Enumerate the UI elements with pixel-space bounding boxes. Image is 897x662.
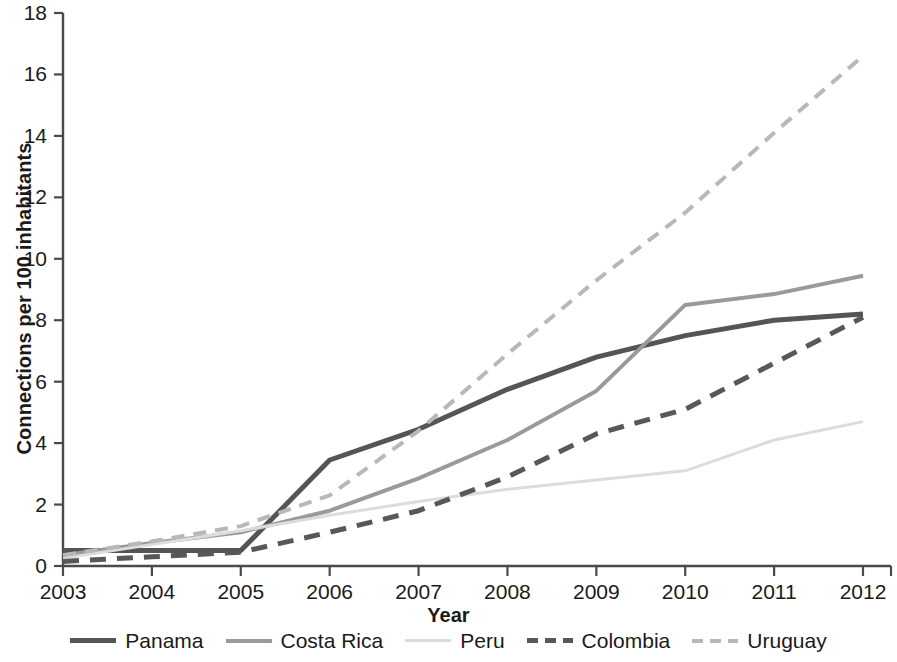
x-axis-tick-label: 2008 (462, 580, 552, 604)
legend-swatch-icon (692, 639, 738, 643)
y-axis-tick-label: 6 (1, 370, 47, 394)
legend-label: Colombia (582, 630, 671, 651)
legend-label: Panama (125, 630, 203, 651)
legend-item-costa-rica[interactable]: Costa Rica (226, 630, 384, 651)
chart-container: Connections per 100 inhabitants Year 024… (0, 0, 897, 662)
legend-label: Peru (460, 630, 504, 651)
y-axis-tick-label: 16 (1, 62, 47, 86)
x-axis-tick-label: 2004 (107, 580, 197, 604)
series-line-uruguay (63, 56, 863, 555)
x-axis-tick-label: 2010 (640, 580, 730, 604)
series-line-colombia (63, 317, 863, 561)
series-line-panama (63, 314, 863, 550)
y-axis-tick-label: 14 (1, 124, 47, 148)
x-axis-tick-label: 2003 (18, 580, 108, 604)
x-axis-title: Year (0, 604, 897, 627)
x-axis-tick-label: 2005 (196, 580, 286, 604)
y-axis-tick-label: 2 (1, 493, 47, 517)
legend-item-panama[interactable]: Panama (70, 630, 203, 651)
legend-swatch-icon (226, 639, 272, 643)
legend-swatch-icon (70, 638, 116, 643)
legend-item-peru[interactable]: Peru (405, 630, 504, 651)
line-chart-plot (0, 0, 897, 662)
x-axis-tick-label: 2009 (551, 580, 641, 604)
series-line-costa-rica (63, 276, 863, 556)
x-axis-tick-label: 2012 (818, 580, 897, 604)
y-axis-tick-label: 10 (1, 247, 47, 271)
legend-swatch-icon (527, 638, 573, 643)
legend-swatch-icon (405, 639, 451, 642)
x-axis-tick-label: 2011 (729, 580, 819, 604)
legend-item-uruguay[interactable]: Uruguay (692, 630, 826, 651)
x-axis-tick-label: 2007 (374, 580, 464, 604)
y-axis-tick-label: 0 (1, 554, 47, 578)
y-axis-tick-label: 4 (1, 431, 47, 455)
legend-label: Costa Rica (281, 630, 384, 651)
y-axis-tick-label: 12 (1, 185, 47, 209)
y-axis-tick-label: 8 (1, 308, 47, 332)
y-axis-tick-label: 18 (1, 1, 47, 25)
legend-label: Uruguay (747, 630, 826, 651)
chart-legend: PanamaCosta RicaPeruColombiaUruguay (0, 630, 897, 651)
x-axis-tick-label: 2006 (285, 580, 375, 604)
legend-item-colombia[interactable]: Colombia (527, 630, 671, 651)
